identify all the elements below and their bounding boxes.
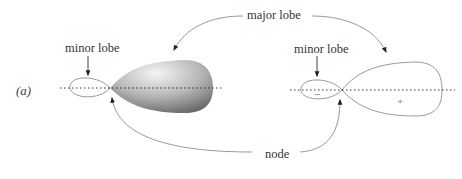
- minor-lobe-label-right: minor lobe: [291, 43, 352, 56]
- right-minor-lobe: [301, 80, 342, 99]
- right-major-lobe: [342, 62, 442, 116]
- shaded-orbital: [60, 60, 222, 113]
- minus-sign: −: [314, 89, 320, 100]
- plus-sign: +: [397, 96, 403, 107]
- node-arrow-right: [300, 100, 340, 152]
- major-lobe-label: major lobe: [244, 9, 304, 22]
- left-minor-lobe: [70, 78, 110, 97]
- node-label: node: [262, 148, 292, 161]
- panel-label: (a): [16, 84, 31, 97]
- diagram-canvas: [0, 0, 462, 179]
- major-lobe-arrow-left: [174, 16, 243, 50]
- left-major-lobe: [110, 60, 213, 113]
- orbital-lobe-diagram: (a) major lobe minor lobe minor lobe nod…: [0, 0, 462, 179]
- minor-lobe-label-left: minor lobe: [62, 42, 123, 55]
